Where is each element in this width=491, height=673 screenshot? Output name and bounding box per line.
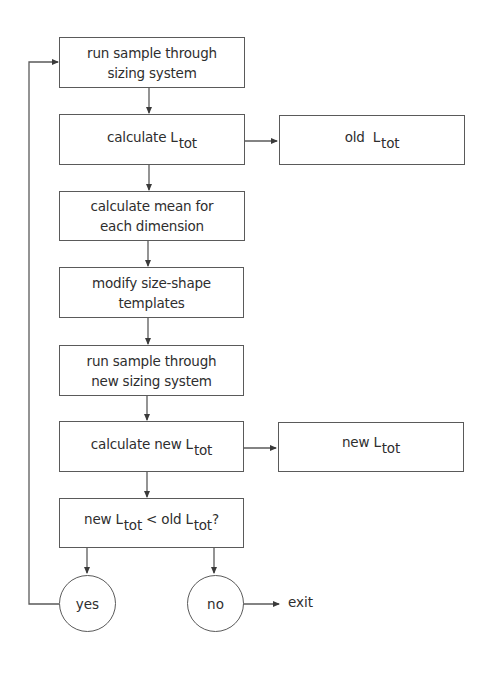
run-new-line2: new sizing system (91, 373, 212, 389)
exit-label: exit (288, 594, 313, 610)
calculate-new-ltot-box: calculate new Ltot (59, 421, 244, 472)
no-node: no (187, 575, 244, 632)
new-ltot-subscript: tot (382, 440, 400, 456)
run-sample-box: run sample through sizing system (59, 37, 245, 88)
calculate-ltot-box: calculate Ltot (59, 114, 245, 165)
run-new-line1: run sample through (87, 353, 217, 369)
modify-templates-line1: modify size-shape (92, 275, 211, 291)
old-ltot-subscript: tot (381, 135, 399, 151)
old-ltot-box: old Ltot (279, 115, 465, 165)
flowchart: run sample through sizing system calcula… (0, 0, 491, 673)
calculate-new-ltot-subscript: tot (194, 442, 212, 458)
yes-label: yes (76, 596, 99, 612)
yes-node: yes (59, 575, 116, 632)
calculate-new-ltot-label: calculate new L (91, 436, 193, 452)
no-label: no (207, 596, 224, 612)
calculate-mean-line2: each dimension (100, 218, 204, 234)
run-sample-line1: run sample through (87, 45, 217, 61)
run-sample-line2: sizing system (107, 65, 196, 81)
decision-suffix: ? (212, 511, 219, 527)
modify-templates-box: modify size-shape templates (59, 267, 244, 318)
decision-sub2: tot (194, 517, 212, 533)
new-ltot-label: new L (342, 434, 381, 450)
decision-part2: < old L (142, 511, 193, 527)
old-ltot-label: old L (345, 129, 380, 145)
modify-templates-line2: templates (118, 295, 184, 311)
calculate-mean-line1: calculate mean for (91, 198, 214, 214)
decision-part1: new L (84, 511, 123, 527)
decision-box: new Ltot < old Ltot? (59, 498, 244, 548)
calculate-mean-box: calculate mean for each dimension (59, 191, 245, 241)
calculate-ltot-label: calculate L (107, 129, 178, 145)
connector-lines (0, 0, 491, 673)
run-new-sizing-box: run sample through new sizing system (59, 345, 244, 396)
new-ltot-box: new Ltot (278, 422, 464, 472)
calculate-ltot-subscript: tot (179, 135, 197, 151)
decision-sub1: tot (124, 517, 142, 533)
